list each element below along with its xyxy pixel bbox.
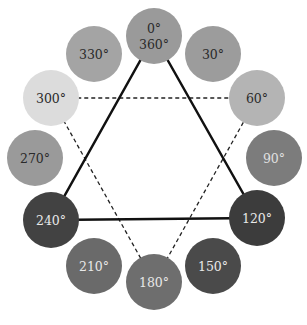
hue-label: 150° — [198, 259, 228, 274]
hue-label: 300° — [36, 91, 66, 106]
hue-circle-270: 270° — [7, 130, 63, 186]
hue-label: 210° — [79, 259, 109, 274]
hue-label: 30° — [202, 47, 224, 62]
hue-label: 90° — [263, 151, 285, 166]
hue-label: 270° — [20, 151, 50, 166]
hue-label: 330° — [79, 47, 109, 62]
hue-circle-330: 330° — [66, 26, 122, 82]
hue-label: 360° — [139, 37, 169, 52]
hue-circle-90: 90° — [246, 130, 302, 186]
hue-label: 0° — [147, 21, 161, 36]
hue-circle-240: 240° — [23, 192, 79, 248]
hue-circle-180: 180° — [126, 254, 182, 310]
hue-label: 240° — [36, 213, 66, 228]
hue-label: 120° — [242, 211, 272, 226]
hue-circle-120: 120° — [229, 190, 285, 246]
hue-circle-150: 150° — [185, 238, 241, 294]
hue-circle-300: 300° — [23, 70, 79, 126]
hue-circle-0: 0°360° — [126, 8, 182, 64]
hue-circles: 0°360°30°60°90°120°150°180°210°240°270°3… — [7, 8, 302, 310]
hue-circle-30: 30° — [185, 26, 241, 82]
hue-circle-210: 210° — [66, 238, 122, 294]
hue-wheel-diagram: 0°360°30°60°90°120°150°180°210°240°270°3… — [0, 0, 307, 325]
hue-label: 180° — [139, 275, 169, 290]
hue-circle-60: 60° — [229, 70, 285, 126]
hue-label: 60° — [246, 91, 268, 106]
